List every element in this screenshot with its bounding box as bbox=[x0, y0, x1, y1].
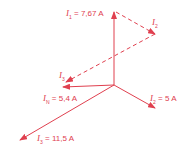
label-i3-dashed: I3 bbox=[59, 70, 65, 82]
label-i2-dashed: I2 bbox=[152, 17, 158, 29]
label-i1: I1 = 7,67 A bbox=[66, 8, 104, 20]
label-i2: I2 = 5 A bbox=[150, 93, 176, 105]
vector-in bbox=[63, 85, 114, 87]
vector-i2 bbox=[114, 85, 155, 108]
dashed-i3 bbox=[66, 34, 155, 82]
phasor-diagram: I1 = 7,67 A I2 I3 IN = 5,4 A I2 = 5 A I3… bbox=[0, 0, 193, 154]
label-in: IN = 5,4 A bbox=[43, 93, 77, 105]
label-i3: I3 = 11,5 A bbox=[37, 133, 74, 145]
dashed-i2 bbox=[116, 12, 155, 34]
phasor-svg bbox=[0, 0, 193, 154]
